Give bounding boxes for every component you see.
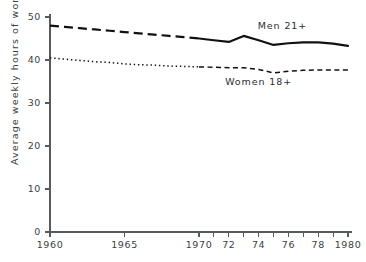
data-series-group — [50, 26, 348, 73]
series-line-men-21-late — [199, 36, 348, 46]
y-tick-label: 40 — [28, 54, 41, 65]
x-tick-label: 1960 — [37, 239, 64, 250]
series-line-women-18-early — [50, 58, 199, 67]
series-annotation-women: Women 18+ — [225, 76, 292, 87]
y-axis-group: 01020304050 — [28, 11, 50, 237]
x-tick-label: 76 — [282, 239, 295, 250]
x-axis-ticks: 196019651970727476781980 — [37, 232, 362, 250]
x-tick-label: 1980 — [335, 239, 362, 250]
x-tick-label: 1970 — [186, 239, 213, 250]
line-chart: 01020304050 196019651970727476781980 Ave… — [0, 0, 366, 262]
y-axis-ticks: 01020304050 — [28, 11, 50, 237]
x-tick-label: 1965 — [111, 239, 138, 250]
series-annotation-group: Men 21+Women 18+ — [225, 20, 307, 87]
series-line-women-18-late — [199, 67, 348, 73]
y-tick-label: 20 — [28, 140, 41, 151]
x-tick-label: 78 — [312, 239, 325, 250]
series-line-men-21-early — [50, 26, 199, 39]
y-tick-label: 10 — [28, 183, 41, 194]
x-tick-label: 72 — [222, 239, 235, 250]
x-tick-label: 74 — [252, 239, 265, 250]
series-annotation-men: Men 21+ — [258, 20, 307, 31]
y-tick-label: 30 — [28, 97, 41, 108]
y-tick-label: 50 — [28, 11, 41, 22]
y-tick-label: 0 — [34, 226, 41, 237]
x-axis-group: 196019651970727476781980 — [37, 232, 362, 250]
chart-container: 01020304050 196019651970727476781980 Ave… — [0, 0, 366, 262]
y-axis-title: Average weekly hours of work — [9, 0, 20, 165]
